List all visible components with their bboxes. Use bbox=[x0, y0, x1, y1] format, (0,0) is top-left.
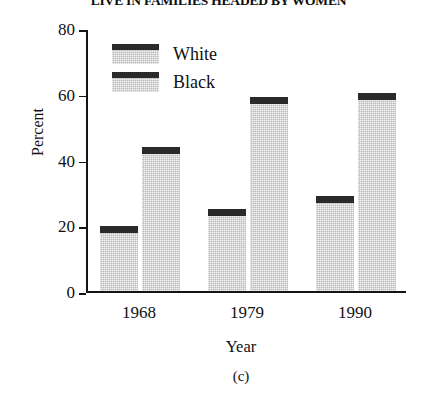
x-axis-line bbox=[86, 291, 406, 293]
bar-black-1979[interactable] bbox=[250, 97, 288, 291]
bar-cap-icon bbox=[142, 147, 180, 154]
legend-swatch-cap-icon bbox=[112, 44, 159, 50]
x-tick-label-1990: 1990 bbox=[338, 303, 372, 323]
x-axis-title: Year bbox=[86, 337, 396, 357]
figure-title: LIVE IN FAMILIES HEADED BY WOMEN bbox=[0, 0, 437, 9]
y-tick-80 bbox=[79, 30, 86, 32]
figure-caption: (c) bbox=[86, 368, 396, 385]
bar-black-1968[interactable] bbox=[142, 147, 180, 292]
bar-black-1990[interactable] bbox=[358, 93, 396, 292]
legend: White Black bbox=[112, 42, 217, 98]
y-tick-label-40: 40 bbox=[58, 153, 75, 170]
bar-cap-icon bbox=[316, 196, 354, 203]
legend-swatch-white-icon bbox=[112, 44, 159, 64]
x-tick-label-1968: 1968 bbox=[122, 303, 156, 323]
y-tick-0 bbox=[79, 293, 86, 295]
y-tick-label-20: 20 bbox=[58, 218, 75, 235]
y-tick-40 bbox=[79, 162, 86, 164]
legend-label-black: Black bbox=[173, 73, 215, 91]
legend-label-white: White bbox=[173, 45, 217, 63]
y-axis-title: Percent bbox=[14, 0, 62, 263]
bar-cap-icon bbox=[208, 209, 246, 216]
y-axis-title-text: Percent bbox=[29, 108, 47, 156]
y-axis-line bbox=[86, 30, 88, 293]
plot-area: 0 20 40 60 80 1968 1979 1990 White bbox=[86, 30, 396, 293]
y-tick-label-80: 80 bbox=[58, 21, 75, 38]
legend-swatch-black-icon bbox=[112, 72, 159, 92]
y-tick-label-0: 0 bbox=[67, 284, 76, 301]
y-tick-20 bbox=[79, 227, 86, 229]
bar-cap-icon bbox=[250, 97, 288, 104]
legend-item-black[interactable]: Black bbox=[112, 70, 217, 94]
legend-item-white[interactable]: White bbox=[112, 42, 217, 66]
bar-white-1968[interactable] bbox=[100, 226, 138, 292]
bar-cap-icon bbox=[358, 93, 396, 100]
y-tick-label-60: 60 bbox=[58, 87, 75, 104]
legend-swatch-cap-icon bbox=[112, 72, 159, 78]
bar-white-1979[interactable] bbox=[208, 209, 246, 291]
y-tick-60 bbox=[79, 96, 86, 98]
bar-white-1990[interactable] bbox=[316, 196, 354, 291]
bar-cap-icon bbox=[100, 226, 138, 233]
x-tick-label-1979: 1979 bbox=[230, 303, 264, 323]
